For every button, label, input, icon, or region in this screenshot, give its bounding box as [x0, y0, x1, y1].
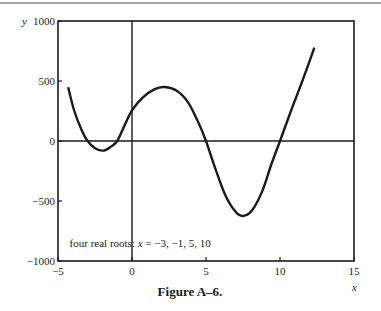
x-tick-label: 0 — [129, 265, 135, 277]
x-axis-label: x — [351, 281, 357, 293]
x-tick-label: 5 — [203, 265, 209, 277]
x-tick-label: 10 — [275, 265, 287, 277]
figure-caption: Figure A–6. — [158, 284, 223, 299]
x-tick-label: 15 — [349, 265, 361, 277]
annotation-prefix: four real roots: — [70, 237, 138, 249]
y-axis-label: y — [21, 15, 27, 27]
y-tick-label: −1000 — [27, 255, 56, 267]
annotation-roots: four real roots: x = −3, −1, 5, 10 — [70, 237, 212, 249]
chart: −5051015−1000−50005001000 four real root… — [0, 0, 381, 311]
y-tick-label: −500 — [32, 195, 55, 207]
y-tick-label: 0 — [50, 135, 56, 147]
series-line-quartic — [68, 49, 314, 216]
annotation-suffix: = −3, −1, 5, 10 — [143, 237, 212, 249]
y-tick-label: 500 — [39, 75, 56, 87]
y-tick-label: 1000 — [33, 15, 56, 27]
